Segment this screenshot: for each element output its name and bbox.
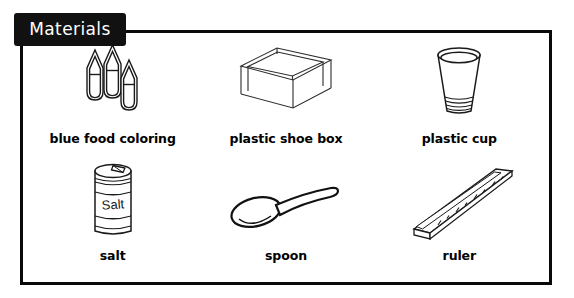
materials-row-1: blue food coloring (26, 36, 546, 158)
open-box-icon (199, 36, 372, 131)
cup-icon (373, 36, 546, 131)
material-label: plastic cup (422, 131, 497, 158)
material-label: ruler (443, 248, 477, 279)
materials-row-2: Salt salt spoon (26, 158, 546, 280)
ruler-icon (373, 158, 546, 249)
materials-badge: Materials (14, 13, 126, 46)
material-item-blue-food-coloring: blue food coloring (26, 36, 199, 158)
spoon-icon (199, 158, 372, 249)
salt-canister-icon: Salt (26, 158, 199, 249)
material-label: blue food coloring (50, 131, 176, 158)
food-coloring-bottles-icon (26, 36, 199, 131)
material-item-plastic-shoe-box: plastic shoe box (199, 36, 372, 158)
material-item-spoon: spoon (199, 158, 372, 280)
material-item-ruler: ruler (373, 158, 546, 280)
material-label: spoon (265, 248, 307, 279)
material-label: plastic shoe box (230, 131, 343, 158)
salt-can-text: Salt (101, 196, 125, 213)
materials-badge-label: Materials (29, 21, 111, 39)
material-item-salt: Salt salt (26, 158, 199, 280)
material-label: salt (100, 248, 126, 279)
materials-grid: blue food coloring (26, 36, 546, 279)
material-item-plastic-cup: plastic cup (373, 36, 546, 158)
materials-panel: blue food coloring (20, 30, 552, 285)
